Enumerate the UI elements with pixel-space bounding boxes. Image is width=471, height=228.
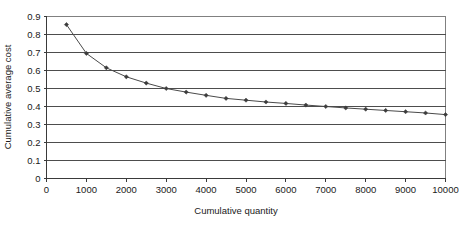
x-tick-label: 10000: [432, 184, 458, 195]
y-axis-label: Cumulative average cost: [2, 44, 13, 149]
y-tick-label: 0.2: [27, 137, 40, 148]
y-tick-label: 0.4: [27, 101, 40, 112]
plot-background: [47, 17, 446, 179]
chart-container: 0100020003000400050006000700080009000100…: [0, 0, 471, 228]
plot-area: [47, 17, 446, 179]
x-tick-label: 3000: [156, 184, 177, 195]
y-tick-label: 0: [35, 173, 40, 184]
x-tick-label: 5000: [235, 184, 256, 195]
x-tick-label: 0: [44, 184, 49, 195]
y-tick-label: 0.7: [27, 47, 40, 58]
y-tick-label: 0.3: [27, 119, 40, 130]
x-tick-label: 1000: [76, 184, 97, 195]
y-tick-label: 0.5: [27, 83, 40, 94]
x-tick-label: 8000: [355, 184, 376, 195]
x-axis-label: Cumulative quantity: [194, 205, 278, 216]
y-tick-label: 0.1: [27, 155, 40, 166]
x-tick-label: 4000: [196, 184, 217, 195]
cumulative-average-cost-line-chart: 0100020003000400050006000700080009000100…: [0, 0, 471, 228]
y-tick-label: 0.6: [27, 65, 40, 76]
x-tick-label: 6000: [275, 184, 296, 195]
x-tick-label: 7000: [315, 184, 336, 195]
x-tick-label: 2000: [116, 184, 137, 195]
y-tick-label: 0.9: [27, 11, 40, 22]
x-tick-label: 9000: [395, 184, 416, 195]
y-tick-label: 0.8: [27, 29, 40, 40]
